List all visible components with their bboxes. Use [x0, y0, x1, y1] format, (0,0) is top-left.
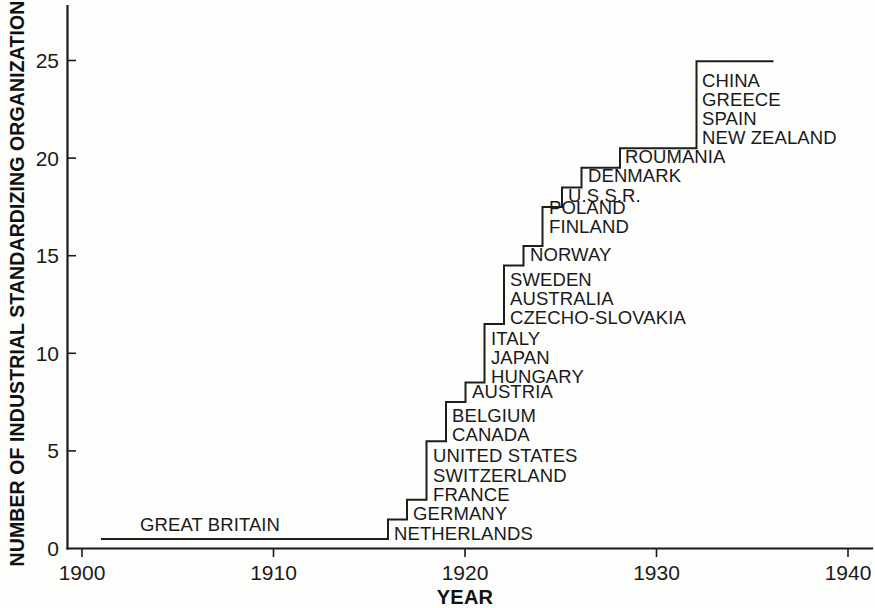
- x-tick-label-1900: 1900: [59, 561, 106, 584]
- label-great-britain: GREAT BRITAIN: [140, 514, 280, 535]
- x-axis-title: YEAR: [437, 586, 494, 608]
- label-united-states: UNITED STATES: [433, 445, 578, 466]
- label-ussr: U.S.S.R.: [568, 185, 641, 206]
- label-roumania: ROUMANIA: [625, 146, 726, 167]
- y-tick-label-10: 10: [36, 342, 59, 365]
- label-china: CHINA: [702, 70, 761, 91]
- label-italy: ITALY: [491, 328, 540, 349]
- series-annotations: GREAT BRITAIN NETHERLANDS GERMANY UNITED…: [140, 70, 837, 544]
- label-new-zealand: NEW ZEALAND: [702, 127, 837, 148]
- label-canada: CANADA: [452, 424, 530, 445]
- label-greece: GREECE: [702, 89, 781, 110]
- label-netherlands: NETHERLANDS: [394, 523, 533, 544]
- x-tick-label-1910: 1910: [250, 561, 297, 584]
- label-switzerland: SWITZERLAND: [433, 465, 567, 486]
- label-hungary: HUNGARY: [491, 366, 584, 387]
- y-tick-label-0: 0: [47, 537, 59, 560]
- chart-canvas: 25 20 15 10 5 0 1900 1910 1920 1930 1940…: [0, 0, 875, 608]
- label-france: FRANCE: [433, 484, 510, 505]
- label-sweden: SWEDEN: [510, 269, 592, 290]
- y-tick-label-25: 25: [36, 49, 59, 72]
- label-finland: FINLAND: [549, 216, 629, 237]
- label-belgium: BELGIUM: [452, 405, 536, 426]
- y-tick-group: 25 20 15 10 5 0: [36, 49, 76, 560]
- x-tick-label-1930: 1930: [633, 561, 680, 584]
- label-denmark: DENMARK: [588, 165, 682, 186]
- label-japan: JAPAN: [491, 347, 550, 368]
- y-tick-label-20: 20: [36, 147, 59, 170]
- y-tick-label-5: 5: [47, 439, 59, 462]
- x-tick-label-1920: 1920: [442, 561, 489, 584]
- label-czecho-slovakia: CZECHO-SLOVAKIA: [510, 307, 686, 328]
- y-tick-label-15: 15: [36, 244, 59, 267]
- label-germany: GERMANY: [413, 503, 507, 524]
- step-chart-figure: 25 20 15 10 5 0 1900 1910 1920 1930 1940…: [0, 0, 875, 608]
- label-spain: SPAIN: [702, 108, 757, 129]
- x-tick-label-1940: 1940: [825, 561, 872, 584]
- label-norway: NORWAY: [530, 244, 611, 265]
- label-australia: AUSTRALIA: [510, 288, 614, 309]
- y-axis-title: NUMBER OF INDUSTRIAL STANDARDIZING ORGAN…: [6, 0, 28, 566]
- x-tick-group: 1900 1910 1920 1930 1940: [59, 549, 872, 585]
